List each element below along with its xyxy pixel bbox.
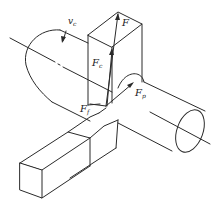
radial-force-arrow (106, 84, 132, 106)
label-fc: Fc (91, 57, 103, 69)
label-f: F (121, 17, 130, 28)
label-fp: Fp (134, 87, 146, 100)
main-force-arrow (107, 50, 112, 106)
label-vc: vc (68, 16, 77, 27)
workpiece-small-cylinder (118, 74, 210, 156)
cutting-speed-arrow (61, 31, 66, 43)
cutting-tool (20, 108, 118, 198)
cutting-force-diagram: vc F Fc Ff Fp (0, 0, 219, 211)
